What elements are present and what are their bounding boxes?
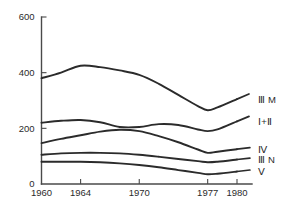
series-label-iii-m: Ⅲ M <box>258 94 276 105</box>
x-axis-tick-labels: 19601964197019771980 <box>31 187 248 198</box>
series-leader-iii-n <box>237 158 250 159</box>
axes <box>42 17 253 184</box>
series-leader-iv <box>237 148 250 150</box>
x-tick-label-1964: 1964 <box>70 187 91 198</box>
line-chart-figure: 0200400600 19601964197019771980 Ⅲ MⅠ+ⅡⅣⅢ… <box>0 0 297 215</box>
series-leader-i-ii <box>237 116 249 121</box>
series-line-iv <box>42 130 238 153</box>
x-tick-label-1970: 1970 <box>129 187 150 198</box>
x-tick-label-1960: 1960 <box>31 187 52 198</box>
x-tick-label-1977: 1977 <box>197 187 218 198</box>
tick-marks <box>42 17 238 184</box>
y-tick-label-200: 200 <box>19 123 35 134</box>
series-leader-lines <box>237 94 250 171</box>
y-tick-label-400: 400 <box>19 67 35 78</box>
y-axis-tick-labels: 0200400600 <box>19 11 35 189</box>
series-label-i-ii: Ⅰ+Ⅱ <box>258 116 272 127</box>
chart-canvas: 0200400600 19601964197019771980 Ⅲ MⅠ+ⅡⅣⅢ… <box>0 0 297 215</box>
series-label-v: Ⅴ <box>258 166 265 177</box>
y-tick-label-600: 600 <box>19 11 35 22</box>
series-line-i-ii <box>42 120 238 131</box>
x-tick-label-1980: 1980 <box>226 187 247 198</box>
series-label-iii-n: Ⅲ N <box>258 154 275 165</box>
series-line-iii-m <box>42 65 238 110</box>
series-labels: Ⅲ MⅠ+ⅡⅣⅢ NⅤ <box>258 94 276 177</box>
series-leader-iii-m <box>237 94 249 99</box>
series-line-v <box>42 162 238 175</box>
series-lines <box>42 65 238 174</box>
series-leader-v <box>237 170 250 171</box>
